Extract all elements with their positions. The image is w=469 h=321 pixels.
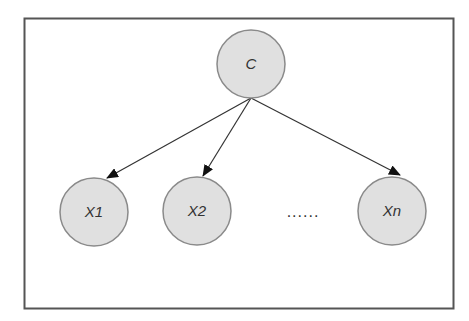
diagram-canvas: C X1 X2 Xn ...... bbox=[0, 0, 469, 321]
node-x2-label: X2 bbox=[187, 202, 207, 219]
node-x1: X1 bbox=[60, 178, 128, 246]
node-c: C bbox=[217, 30, 285, 98]
node-xn-label: Xn bbox=[382, 202, 401, 219]
node-xn: Xn bbox=[358, 177, 426, 245]
node-x1-label: X1 bbox=[84, 203, 103, 220]
node-c-label: C bbox=[246, 55, 257, 72]
node-x2: X2 bbox=[163, 177, 231, 245]
ellipsis: ...... bbox=[287, 203, 320, 220]
